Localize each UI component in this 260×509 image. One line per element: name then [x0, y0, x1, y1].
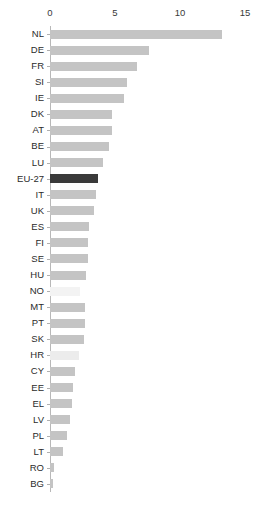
bar: [50, 190, 96, 199]
bar-row: BG: [0, 476, 260, 492]
bar-highlighted: [50, 174, 98, 183]
bar-row: NO: [0, 283, 260, 299]
bar-row: ES: [0, 219, 260, 235]
bar-row: EU-27: [0, 171, 260, 187]
category-label: LV: [33, 412, 44, 428]
category-label: AT: [33, 122, 44, 138]
bar-row: DK: [0, 106, 260, 122]
bar: [50, 447, 63, 456]
plot-area: NLDEFRSIIEDKATBELUEU-27ITUKESFISEHUNOMTP…: [0, 26, 260, 492]
bar-row: BE: [0, 138, 260, 154]
bar-row: UK: [0, 203, 260, 219]
category-label: PL: [32, 428, 44, 444]
category-label: SK: [31, 331, 44, 347]
bar-row: CY: [0, 363, 260, 379]
category-label: FI: [36, 235, 44, 251]
category-label: HR: [30, 347, 44, 363]
x-tick-label: 5: [112, 8, 117, 18]
bar-row: LT: [0, 444, 260, 460]
bar-row: FI: [0, 235, 260, 251]
category-label: PT: [32, 315, 44, 331]
bar: [50, 383, 73, 392]
bar: [50, 303, 85, 312]
bar-row: SK: [0, 331, 260, 347]
bar: [50, 110, 112, 119]
bar-row: AT: [0, 122, 260, 138]
category-label: CY: [31, 363, 44, 379]
category-label: EE: [31, 380, 44, 396]
category-label: IE: [35, 90, 44, 106]
bar-row: RO: [0, 460, 260, 476]
x-axis: 051015: [0, 0, 260, 26]
bar-row: SE: [0, 251, 260, 267]
category-label: DK: [31, 106, 44, 122]
bar-row: DE: [0, 42, 260, 58]
bar: [50, 126, 112, 135]
category-label: NO: [30, 283, 44, 299]
category-label: NL: [32, 26, 44, 42]
category-label: HU: [30, 267, 44, 283]
bar: [50, 287, 80, 296]
bar: [50, 94, 124, 103]
bar: [50, 479, 53, 488]
category-label: SI: [35, 74, 44, 90]
bar: [50, 158, 103, 167]
bar: [50, 399, 72, 408]
bar-row: HR: [0, 347, 260, 363]
bar: [50, 46, 149, 55]
bar: [50, 351, 79, 360]
bar: [50, 254, 88, 263]
bar: [50, 271, 86, 280]
category-label: RO: [30, 460, 44, 476]
category-label: BG: [30, 476, 44, 492]
category-label: ES: [31, 219, 44, 235]
bar: [50, 335, 84, 344]
bar: [50, 463, 54, 472]
category-label: EL: [32, 396, 44, 412]
bar: [50, 142, 109, 151]
bar-row: IT: [0, 187, 260, 203]
bar: [50, 238, 88, 247]
category-label: IT: [36, 187, 44, 203]
bar: [50, 367, 75, 376]
bar: [50, 222, 89, 231]
bar-row: EL: [0, 396, 260, 412]
category-label: LT: [34, 444, 44, 460]
bar-row: MT: [0, 299, 260, 315]
category-label: BE: [31, 138, 44, 154]
bar-row: PL: [0, 428, 260, 444]
bar-row: IE: [0, 90, 260, 106]
bar: [50, 62, 137, 71]
category-label: MT: [30, 299, 44, 315]
bar-row: NL: [0, 26, 260, 42]
bar-chart: 051015 NLDEFRSIIEDKATBELUEU-27ITUKESFISE…: [0, 0, 260, 509]
x-tick-label: 10: [175, 8, 186, 18]
bar-row: LV: [0, 412, 260, 428]
bar-row: FR: [0, 58, 260, 74]
bar-row: SI: [0, 74, 260, 90]
category-label: UK: [31, 203, 44, 219]
category-label: DE: [31, 42, 44, 58]
x-tick-label: 15: [240, 8, 251, 18]
bar-row: LU: [0, 155, 260, 171]
x-tick-label: 0: [47, 8, 52, 18]
category-label: SE: [31, 251, 44, 267]
bar: [50, 30, 222, 39]
bar: [50, 415, 70, 424]
bar-row: PT: [0, 315, 260, 331]
category-label: LU: [32, 155, 44, 171]
bar: [50, 431, 67, 440]
bar-row: EE: [0, 380, 260, 396]
bar-row: HU: [0, 267, 260, 283]
category-label: EU-27: [17, 171, 44, 187]
category-label: FR: [31, 58, 44, 74]
bar: [50, 206, 94, 215]
bar: [50, 319, 85, 328]
bar: [50, 78, 127, 87]
